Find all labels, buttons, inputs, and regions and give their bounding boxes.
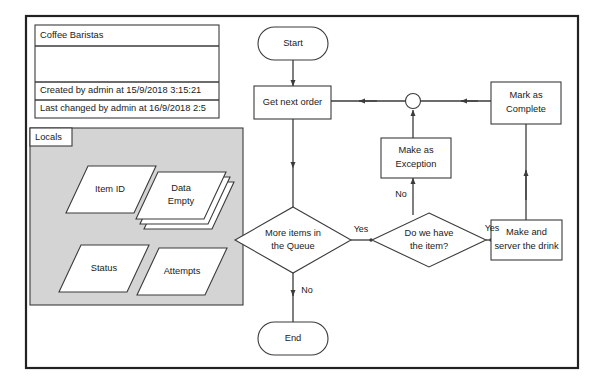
mark-as-complete-label-line2: Complete <box>506 104 546 114</box>
node-end[interactable]: End <box>258 322 328 355</box>
process-name-label: Coffee Baristas <box>40 30 104 40</box>
locals-panel: Locals Item ID Data Empty Status Attempt… <box>30 128 243 305</box>
node-mark-as-complete[interactable]: Mark as Complete <box>491 82 561 124</box>
make-and-server-drink-label-line2: server the drink <box>494 241 558 251</box>
data-empty-label-line1: Data <box>171 183 191 193</box>
node-make-and-server-drink[interactable]: Make and server the drink <box>491 220 562 260</box>
edge-label-item-no: No <box>395 189 407 199</box>
node-get-next-order[interactable]: Get next order <box>254 86 331 119</box>
make-and-server-drink-label-line1: Make and <box>506 227 547 237</box>
node-make-as-exception[interactable]: Make as Exception <box>381 138 451 178</box>
node-merge-connector[interactable] <box>406 94 421 109</box>
make-as-exception-shape[interactable] <box>381 138 451 178</box>
edge-label-item-yes: Yes <box>485 223 500 233</box>
merge-connector-circle[interactable] <box>406 94 421 109</box>
more-items-label-line1: More items in <box>265 228 321 238</box>
do-we-have-item-label-line1: Do we have <box>404 228 453 238</box>
title-card: Coffee Baristas Created by admin at 15/9… <box>35 25 219 118</box>
edge-label-queue-no: No <box>301 285 313 295</box>
item-id-label: Item ID <box>95 184 125 194</box>
locals-tag-label: Locals <box>35 132 62 142</box>
make-as-exception-label-line1: Make as <box>398 145 433 155</box>
attempts-label: Attempts <box>164 266 201 276</box>
start-label: Start <box>283 38 303 48</box>
mark-as-complete-label-line1: Mark as <box>509 90 542 100</box>
status-label: Status <box>91 263 118 273</box>
make-and-server-drink-shape[interactable] <box>491 220 562 260</box>
more-items-label-line2: the Queue <box>271 241 314 251</box>
do-we-have-item-label-line2: the item? <box>410 241 448 251</box>
get-next-order-label: Get next order <box>263 97 322 107</box>
last-changed-label: Last changed by admin at 16/9/2018 2:5 <box>40 103 206 113</box>
edge-label-queue-yes: Yes <box>354 224 369 234</box>
flowchart-canvas: Coffee Baristas Created by admin at 15/9… <box>0 0 593 385</box>
end-label: End <box>285 333 302 343</box>
make-as-exception-label-line2: Exception <box>396 159 437 169</box>
created-by-label: Created by admin at 15/9/2018 3:15:21 <box>40 85 201 95</box>
mark-as-complete-shape[interactable] <box>491 82 561 124</box>
data-empty-label-line2: Empty <box>168 196 195 206</box>
node-start[interactable]: Start <box>258 27 328 60</box>
